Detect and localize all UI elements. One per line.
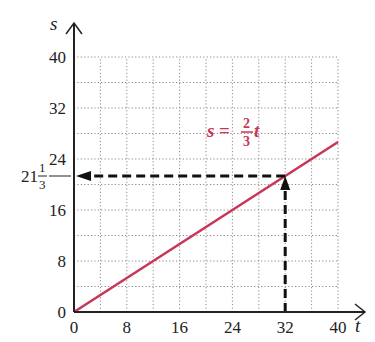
equation-label: s = 2 3 t <box>206 116 260 149</box>
x-axis-label: t <box>355 315 361 336</box>
y-tick-label: 16 <box>49 201 66 220</box>
eq-equals: = <box>219 120 230 141</box>
eq-lhs: s <box>206 120 214 141</box>
y-tick-label: 24 <box>49 150 67 169</box>
tick-labels: 08162432400816243240 <box>49 48 347 337</box>
eq-denominator: 3 <box>243 134 250 149</box>
marker-whole: 21 <box>21 167 38 186</box>
x-tick-label: 0 <box>70 318 79 337</box>
y-tick-label: 32 <box>49 99 66 118</box>
grid-lines <box>74 57 338 312</box>
data-line <box>74 142 338 312</box>
eq-numerator: 2 <box>243 116 250 131</box>
x-tick-label: 16 <box>171 318 188 337</box>
marker-denominator: 3 <box>39 177 46 192</box>
axes <box>66 23 365 320</box>
y-tick-label: 40 <box>49 48 66 67</box>
eq-variable: t <box>254 120 260 141</box>
x-tick-label: 32 <box>277 318 294 337</box>
marker-numerator: 1 <box>39 160 46 175</box>
chart: 08162432400816243240 t s 21 1 3 s = 2 3 … <box>0 0 375 342</box>
x-tick-label: 40 <box>330 318 347 337</box>
x-tick-label: 24 <box>224 318 242 337</box>
x-tick-label: 8 <box>123 318 132 337</box>
y-tick-label: 0 <box>58 303 67 322</box>
y-tick-label: 8 <box>58 252 67 271</box>
y-axis-label: s <box>50 13 57 34</box>
line-s-equals-two-thirds-t <box>74 142 338 312</box>
arrow-left-icon <box>76 171 91 181</box>
